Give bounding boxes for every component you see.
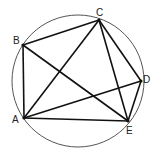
label-B: B <box>13 35 20 46</box>
label-E: E <box>126 125 133 136</box>
segment-AC <box>24 20 99 118</box>
segments <box>23 20 141 121</box>
vertex-A <box>22 116 25 119</box>
segment-AD <box>24 81 141 118</box>
segment-BE <box>23 45 128 121</box>
segment-AB <box>23 45 24 118</box>
cyclic-pentagon-diagram: ABCDE <box>0 0 156 157</box>
vertex-E <box>126 119 129 122</box>
vertex-C <box>97 18 100 21</box>
segment-CD <box>99 20 141 81</box>
segment-CE <box>99 20 128 121</box>
vertex-B <box>21 43 24 46</box>
segment-BC <box>23 20 99 45</box>
label-C: C <box>96 7 103 18</box>
segment-AE <box>24 118 128 121</box>
circumcircle <box>12 15 144 147</box>
label-A: A <box>12 114 19 125</box>
label-D: D <box>143 74 150 85</box>
